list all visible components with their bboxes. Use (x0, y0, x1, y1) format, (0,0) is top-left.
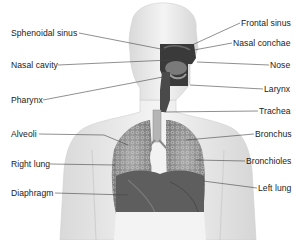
label-diaphragm: Diaphragm (11, 188, 53, 198)
label-pharynx: Pharynx (11, 95, 43, 105)
respiratory-diagram: Sphenoidal sinus Nasal cavity Pharynx Al… (0, 0, 297, 240)
diaphragm (116, 171, 204, 215)
label-nasal-conchae: Nasal conchae (233, 38, 291, 48)
label-right-lung: Right lung (11, 159, 50, 169)
label-left-lung: Left lung (258, 183, 291, 193)
label-frontal-sinus: Frontal sinus (241, 18, 291, 28)
label-bronchioles: Bronchioles (246, 156, 291, 166)
label-nose: Nose (270, 60, 290, 70)
label-trachea: Trachea (259, 106, 291, 116)
label-alveoli: Alveoli (11, 129, 37, 139)
label-larynx: Larynx (264, 84, 290, 94)
label-sphenoidal-sinus: Sphenoidal sinus (11, 28, 77, 38)
label-bronchus: Bronchus (255, 129, 292, 139)
label-nasal-cavity: Nasal cavity (11, 60, 58, 70)
